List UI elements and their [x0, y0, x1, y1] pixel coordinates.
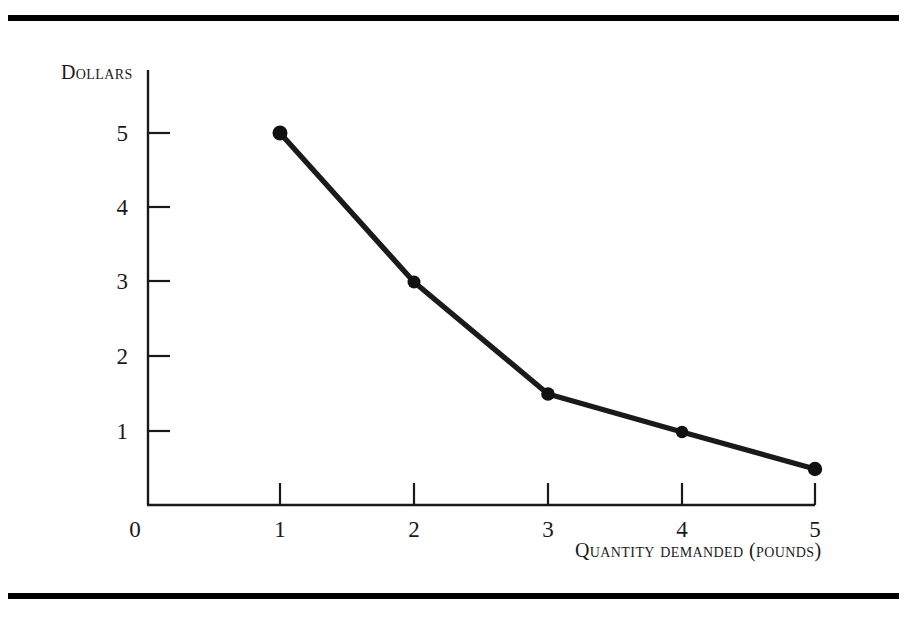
data-point — [676, 426, 688, 438]
y-axis-title: Dollars — [61, 62, 133, 82]
y-tick-label-4: 4 — [102, 196, 128, 219]
chart-canvas — [0, 21, 907, 593]
y-tick-label-2: 2 — [102, 345, 128, 368]
x-tick-label-4: 4 — [669, 518, 695, 541]
y-tick-label-5: 5 — [102, 122, 128, 145]
data-point — [808, 462, 822, 476]
x-tick-label-0: 0 — [122, 518, 148, 541]
demand-curve-figure: Dollars Quantity demanded (pounds) 5 4 3… — [0, 21, 907, 593]
x-tick-label-5: 5 — [802, 518, 828, 541]
data-point — [541, 387, 555, 401]
y-tick-label-3: 3 — [102, 270, 128, 293]
data-point — [273, 126, 288, 141]
plot-background — [0, 21, 907, 593]
x-tick-label-3: 3 — [535, 518, 561, 541]
y-tick-label-1: 1 — [102, 420, 128, 443]
data-point — [408, 276, 421, 289]
figure-page: Dollars Quantity demanded (pounds) 5 4 3… — [0, 0, 907, 620]
x-tick-label-2: 2 — [401, 518, 427, 541]
bottom-rule — [8, 593, 899, 599]
x-axis-title: Quantity demanded (pounds) — [575, 540, 822, 560]
x-tick-label-1: 1 — [267, 518, 293, 541]
